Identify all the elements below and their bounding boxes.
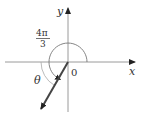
origin-label: 0 bbox=[71, 67, 77, 78]
angle-diagram: y x 0 4π 3 θ bbox=[0, 0, 143, 120]
y-axis-label: y bbox=[56, 5, 64, 18]
angle-label-numerator: 4π bbox=[36, 28, 48, 38]
theta-label: θ bbox=[34, 74, 41, 87]
terminal-ray bbox=[41, 62, 68, 109]
angle-label-denominator: 3 bbox=[40, 39, 46, 49]
x-axis-label: x bbox=[129, 65, 136, 78]
